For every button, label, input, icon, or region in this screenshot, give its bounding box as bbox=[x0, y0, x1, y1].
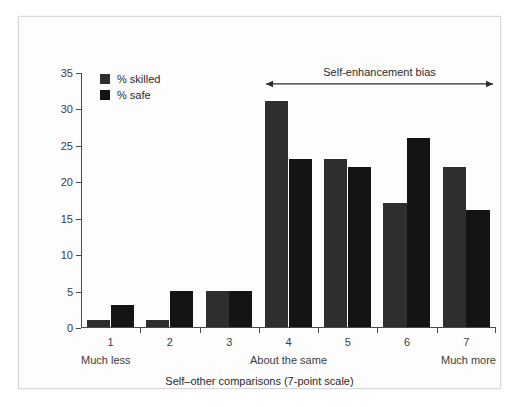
self-enhancement-bias-arrow bbox=[81, 73, 496, 328]
x-tick-label: 5 bbox=[345, 336, 351, 348]
x-tick-label: 2 bbox=[167, 336, 173, 348]
y-tick-label: 20 bbox=[61, 176, 73, 188]
axis-end-label: Much more bbox=[441, 354, 496, 366]
x-tick bbox=[495, 328, 496, 333]
y-tick-label: 25 bbox=[61, 140, 73, 152]
y-tick-label: 5 bbox=[67, 286, 73, 298]
axis-end-label: About the same bbox=[250, 354, 327, 366]
x-axis-title: Self–other comparisons (7-point scale) bbox=[19, 375, 500, 387]
plot-area: 05101520253035 1234567 Self-enhancement … bbox=[81, 73, 496, 328]
figure-canvas: % skilled % safe 05101520253035 1234567 … bbox=[0, 0, 519, 407]
y-tick-label: 0 bbox=[67, 322, 73, 334]
y-tick bbox=[76, 328, 81, 329]
y-tick-label: 15 bbox=[61, 213, 73, 225]
x-tick bbox=[377, 328, 378, 333]
annotation-label: Self-enhancement bias bbox=[323, 66, 436, 78]
y-tick-label: 35 bbox=[61, 67, 73, 79]
x-tick bbox=[140, 328, 141, 333]
x-tick-label: 3 bbox=[226, 336, 232, 348]
y-tick-label: 10 bbox=[61, 249, 73, 261]
x-tick bbox=[318, 328, 319, 333]
x-tick-label: 1 bbox=[108, 336, 114, 348]
x-tick bbox=[437, 328, 438, 333]
y-tick-label: 30 bbox=[61, 103, 73, 115]
x-tick-label: 6 bbox=[404, 336, 410, 348]
x-tick-label: 7 bbox=[463, 336, 469, 348]
x-tick bbox=[259, 328, 260, 333]
figure-frame: % skilled % safe 05101520253035 1234567 … bbox=[18, 16, 501, 389]
axis-end-label: Much less bbox=[81, 354, 131, 366]
x-tick bbox=[200, 328, 201, 333]
x-tick-label: 4 bbox=[285, 336, 291, 348]
